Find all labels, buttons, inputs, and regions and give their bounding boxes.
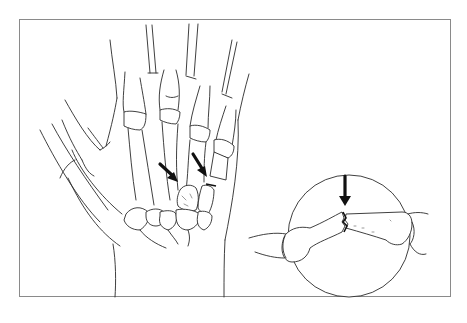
forearm-outline [68, 74, 249, 297]
ring-finger-bones [186, 24, 210, 190]
little-finger-bones [210, 40, 237, 180]
thumb-bones [40, 100, 122, 222]
carpal-bones [124, 208, 212, 248]
figure-canvas [0, 0, 467, 323]
middle-finger-bones [146, 25, 180, 200]
inset-detail [249, 175, 428, 297]
fracture-arrow-1 [160, 164, 178, 182]
hand-skeleton-illustration [0, 0, 467, 323]
index-finger-bones [106, 40, 154, 205]
